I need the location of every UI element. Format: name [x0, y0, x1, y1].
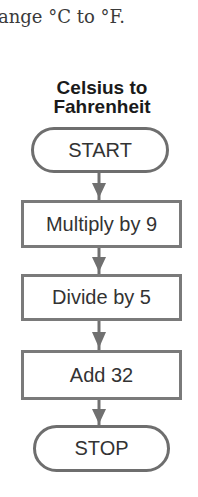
arrow-down-icon [89, 400, 109, 426]
flowchart-title-line2: Fahrenheit [0, 97, 198, 117]
step-add-32: Add 32 [21, 350, 182, 400]
start-label: START [68, 139, 132, 162]
step-label: Divide by 5 [52, 286, 151, 309]
arrow-down-icon [89, 321, 109, 350]
stop-label: STOP [74, 437, 128, 460]
start-terminal: START [31, 127, 169, 173]
step-label: Multiply by 9 [46, 213, 157, 236]
step-multiply-by-9: Multiply by 9 [21, 200, 182, 248]
arrow-down-icon [89, 248, 109, 274]
step-divide-by-5: Divide by 5 [21, 274, 182, 321]
intro-text: ange °C to °F. [0, 6, 125, 27]
arrow-down-icon [89, 173, 109, 200]
step-label: Add 32 [70, 364, 133, 387]
flowchart-title-line1: Celsius to [0, 78, 198, 98]
stop-terminal: STOP [33, 425, 170, 472]
